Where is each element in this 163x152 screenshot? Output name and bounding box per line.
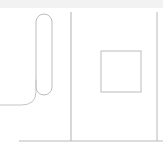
capsule-outline [36, 14, 52, 95]
drawing-canvas [0, 0, 163, 152]
sweeping-curve [0, 80, 36, 105]
line-drawing [0, 0, 163, 152]
square-outline [101, 51, 141, 92]
